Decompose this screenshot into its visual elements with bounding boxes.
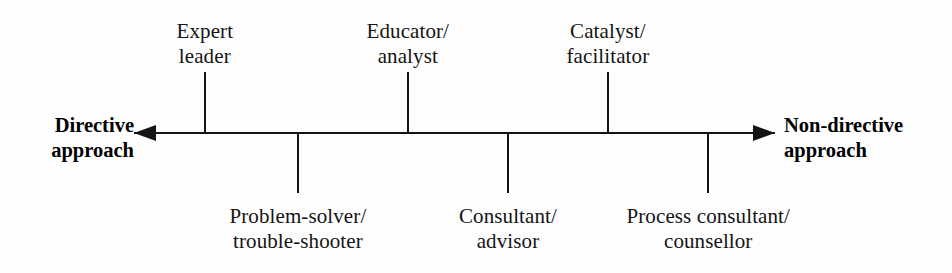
right-arrowhead-icon <box>753 125 775 141</box>
role-label-line-1: Expert <box>177 19 234 44</box>
role-label-expert-leader: Expertleader <box>177 19 234 68</box>
consulting-styles-continuum-diagram: ExpertleaderProblem-solver/trouble-shoot… <box>0 0 952 273</box>
role-label-line-2: counsellor <box>627 229 790 254</box>
role-label-line-2: advisor <box>459 229 557 254</box>
role-label-line-1: Problem-solver/ <box>230 204 367 229</box>
role-label-line-2: leader <box>177 44 234 69</box>
role-label-line-2: analyst <box>367 44 450 69</box>
directive-pole-line-1: Directive <box>51 113 134 138</box>
role-label-consultant-advisor: Consultant/advisor <box>459 204 557 253</box>
role-label-educator-analyst: Educator/analyst <box>367 19 450 68</box>
non-directive-pole-line-2: approach <box>784 138 903 163</box>
role-label-line-1: Consultant/ <box>459 204 557 229</box>
non-directive-pole-line-1: Non-directive <box>784 113 903 138</box>
directive-pole-line-2: approach <box>51 138 134 163</box>
role-label-problem-solver-trouble-shooter: Problem-solver/trouble-shooter <box>230 204 367 253</box>
role-label-line-2: trouble-shooter <box>230 229 367 254</box>
non-directive-pole-label: Non-directive approach <box>784 113 903 162</box>
role-label-line-1: Process consultant/ <box>627 204 790 229</box>
role-label-line-1: Educator/ <box>367 19 450 44</box>
directive-pole-label: Directive approach <box>51 113 134 162</box>
role-label-process-consultant-counsellor: Process consultant/counsellor <box>627 204 790 253</box>
role-label-line-2: facilitator <box>567 44 650 69</box>
role-label-catalyst-facilitator: Catalyst/facilitator <box>567 19 650 68</box>
role-label-line-1: Catalyst/ <box>567 19 650 44</box>
left-arrowhead-icon <box>134 125 156 141</box>
